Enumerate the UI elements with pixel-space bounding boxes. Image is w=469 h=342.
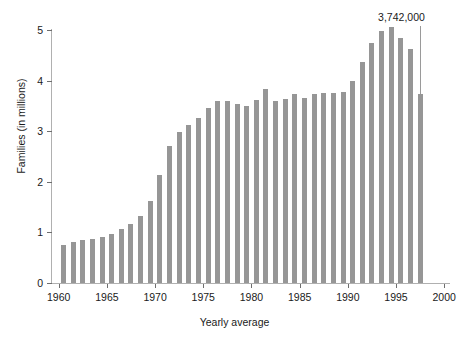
bar-1991 <box>360 62 365 283</box>
bar-1978 <box>235 104 240 283</box>
bar-1975 <box>206 108 211 283</box>
bar-1986 <box>312 94 317 283</box>
x-tick-label-1965: 1965 <box>87 291 127 303</box>
x-tick-mark-1970 <box>155 284 156 288</box>
bar-1983 <box>283 99 288 283</box>
bar-1976 <box>215 101 220 283</box>
bar-1972 <box>177 132 182 283</box>
bar-1979 <box>244 106 249 283</box>
bar-1968 <box>138 216 143 283</box>
bar-1984 <box>292 94 297 283</box>
bar-1971 <box>167 146 172 283</box>
x-tick-mark-1990 <box>348 284 349 288</box>
x-tick-mark-1960 <box>59 284 60 288</box>
bar-1970 <box>157 175 162 283</box>
x-tick-label-1995: 1995 <box>376 291 416 303</box>
x-tick-label-1985: 1985 <box>280 291 320 303</box>
bar-1963 <box>90 239 95 283</box>
bar-1995 <box>398 38 403 283</box>
bar-1973 <box>186 125 191 283</box>
bar-1962 <box>80 240 85 283</box>
bar-1985 <box>302 98 307 283</box>
bar-1960 <box>61 245 66 283</box>
bar-1982 <box>273 101 278 283</box>
bar-1997 <box>418 94 423 283</box>
bar-1981 <box>263 89 268 283</box>
bar-1967 <box>128 224 133 283</box>
x-tick-label-1960: 1960 <box>39 291 79 303</box>
bar-1990 <box>350 81 355 283</box>
x-tick-mark-2000 <box>444 284 445 288</box>
bar-1974 <box>196 118 201 283</box>
bar-1987 <box>321 93 326 283</box>
bar-1980 <box>254 100 259 283</box>
x-tick-label-2000: 2000 <box>424 291 464 303</box>
bar-1977 <box>225 101 230 283</box>
bar-1988 <box>331 93 336 283</box>
bar-1989 <box>341 92 346 283</box>
x-tick-mark-1975 <box>203 284 204 288</box>
annotation-leader-line <box>420 26 421 94</box>
annotation-label-3742000: 3,742,000 <box>378 11 425 23</box>
bar-1994 <box>389 27 394 283</box>
x-tick-mark-1965 <box>107 284 108 288</box>
bar-1966 <box>119 229 124 283</box>
x-tick-mark-1995 <box>396 284 397 288</box>
x-tick-label-1970: 1970 <box>135 291 175 303</box>
bars-series <box>0 0 469 284</box>
bar-1993 <box>379 31 384 283</box>
x-tick-label-1990: 1990 <box>328 291 368 303</box>
x-tick-mark-1985 <box>300 284 301 288</box>
bar-1961 <box>71 242 76 283</box>
bar-1992 <box>369 43 374 283</box>
x-axis-title: Yearly average <box>0 316 469 328</box>
bar-1969 <box>148 201 153 283</box>
x-tick-label-1980: 1980 <box>231 291 271 303</box>
bar-1996 <box>408 49 413 283</box>
bar-1964 <box>100 237 105 283</box>
x-tick-label-1975: 1975 <box>183 291 223 303</box>
bar-chart-figure: Families (in millions) 012345 1960196519… <box>0 0 469 342</box>
bar-1965 <box>109 234 114 283</box>
x-tick-mark-1980 <box>251 284 252 288</box>
